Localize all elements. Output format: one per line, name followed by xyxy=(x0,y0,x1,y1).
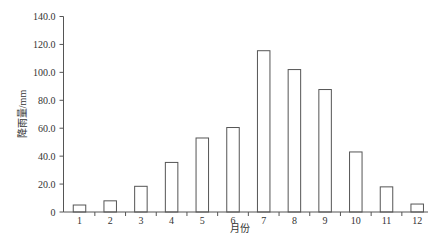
y-tick-label: 120.0 xyxy=(33,39,56,50)
bar-month-6 xyxy=(227,128,240,212)
bar-month-7 xyxy=(257,51,270,212)
y-tick-label: 100.0 xyxy=(33,67,56,78)
x-axis-title: 月份 xyxy=(230,223,250,234)
bar-month-11 xyxy=(380,187,393,212)
x-tick-label: 4 xyxy=(169,215,174,226)
y-tick-label: 20.0 xyxy=(38,179,56,190)
y-tick-label: 60.0 xyxy=(38,123,56,134)
bar-month-5 xyxy=(196,138,209,212)
y-axis-ticks: 020.040.060.080.0100.0120.0140.0 xyxy=(33,11,64,218)
y-tick-label: 40.0 xyxy=(38,151,56,162)
x-tick-label: 2 xyxy=(108,215,113,226)
bar-month-4 xyxy=(165,162,178,212)
x-tick-label: 1 xyxy=(77,215,82,226)
bar-month-10 xyxy=(350,152,363,212)
y-axis-title: 降雨量/mm xyxy=(16,90,28,139)
x-tick-label: 9 xyxy=(323,215,328,226)
rainfall-bar-chart: 020.040.060.080.0100.0120.0140.0 1234567… xyxy=(0,0,438,250)
y-tick-label: 80.0 xyxy=(38,95,56,106)
bars xyxy=(73,51,423,212)
bar-month-2 xyxy=(104,201,117,212)
bar-month-8 xyxy=(288,70,301,212)
bar-month-9 xyxy=(319,90,332,212)
bar-month-3 xyxy=(135,186,148,212)
x-tick-label: 10 xyxy=(351,215,361,226)
y-tick-label: 0 xyxy=(51,207,56,218)
x-tick-label: 11 xyxy=(382,215,392,226)
x-tick-label: 12 xyxy=(412,215,422,226)
x-tick-label: 5 xyxy=(200,215,205,226)
bar-month-12 xyxy=(411,204,424,212)
y-tick-label: 140.0 xyxy=(33,11,56,22)
x-tick-label: 8 xyxy=(292,215,297,226)
x-tick-label: 3 xyxy=(138,215,143,226)
x-tick-label: 7 xyxy=(261,215,266,226)
bar-month-1 xyxy=(73,205,86,212)
